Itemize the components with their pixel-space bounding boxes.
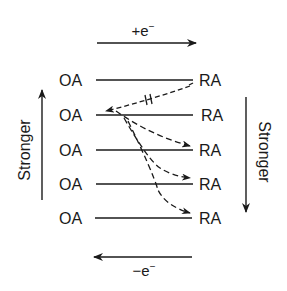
allowed-transfer-arrow-2 (124, 118, 190, 178)
oa-label: OA (59, 176, 82, 193)
oa-label: OA (59, 107, 82, 124)
ra-label: RA (199, 142, 222, 159)
right-strength-axis: Stronger (246, 97, 273, 212)
allowed-transfer-arrow-1 (116, 111, 190, 146)
ra-label: RA (199, 72, 222, 89)
oa-label: OA (59, 142, 82, 159)
row-4: OA RA (59, 176, 222, 193)
left-stronger-label: Stronger (16, 119, 33, 181)
row-5: OA RA (59, 210, 222, 227)
ra-label: RA (201, 107, 224, 124)
row-2: OA RA (59, 107, 224, 124)
ra-label: RA (199, 176, 222, 193)
gain-electron-label: +e− (132, 21, 155, 39)
redox-strength-diagram: +e− Stronger Stronger OA RA OA RA OA RA (0, 0, 287, 291)
diagram-canvas: +e− Stronger Stronger OA RA OA RA OA RA (0, 0, 287, 291)
left-strength-axis: Stronger (16, 90, 42, 200)
gain-electron-arrow: +e− (97, 21, 196, 43)
lose-electron-label: −e− (133, 261, 156, 279)
lose-electron-arrow: −e− (94, 257, 192, 279)
oa-label: OA (59, 72, 82, 89)
blocked-transfer-arrow (106, 83, 193, 111)
oa-label: OA (59, 210, 82, 227)
right-stronger-label: Stronger (256, 121, 273, 183)
row-1: OA RA (59, 72, 222, 89)
ra-label: RA (199, 210, 222, 227)
